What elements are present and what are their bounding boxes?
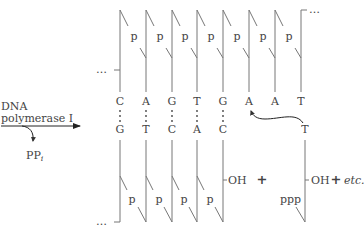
template-base: G [219, 95, 228, 108]
plus-sign-2: + [331, 172, 342, 187]
template-base: A [244, 95, 254, 108]
new-base: G [116, 123, 125, 136]
phosphate-label: p [233, 30, 240, 43]
new-base: C [219, 123, 227, 136]
etc-label: etc. [344, 174, 364, 187]
incoming-oh: OH [311, 174, 330, 187]
template-base: A [141, 95, 151, 108]
template-base: T [193, 95, 201, 108]
base-pair-bonds [119, 110, 224, 122]
phosphate-label: p [206, 193, 213, 206]
new-strand: G T C A C p p p p OH … [96, 123, 247, 228]
phosphate-label: p [155, 193, 162, 206]
pairing-arrow [251, 111, 303, 123]
phosphate-label: p [207, 30, 214, 43]
incoming-base: T [301, 123, 309, 136]
enzyme-label-line2: polymerase I [1, 112, 73, 125]
new-base: C [168, 123, 176, 136]
triphosphate-label: ppp [280, 193, 301, 206]
phosphate-label: p [130, 30, 137, 43]
enzyme-reaction: DNA polymerase I PPi [1, 100, 80, 163]
template-base: C [116, 95, 124, 108]
new-strand-continuation: … [96, 215, 107, 228]
phosphate-label: p [285, 30, 292, 43]
template-continuation-right: … [309, 3, 320, 16]
new-base: A [192, 123, 202, 136]
new-base: T [142, 123, 150, 136]
phosphate-label: p [156, 30, 163, 43]
dna-polymerase-diagram: … p p p p p p p … C A G T G A [0, 0, 364, 228]
template-continuation-left: … [96, 63, 107, 76]
phosphate-label: p [180, 193, 187, 206]
template-base: T [297, 95, 305, 108]
plus-sign: + [257, 172, 268, 187]
new-strand-oh: OH [228, 174, 247, 187]
template-base: G [168, 95, 177, 108]
phosphate-label: p [181, 30, 188, 43]
template-strand: … p p p p p p p … C A G T G A [96, 3, 320, 108]
incoming-nucleotide: T OH ppp [251, 111, 330, 222]
byproduct-arrow [22, 126, 33, 141]
phosphate-label: p [259, 30, 266, 43]
template-base: A [270, 95, 280, 108]
byproduct-label: PPi [26, 149, 44, 163]
phosphate-label: p [128, 193, 135, 206]
